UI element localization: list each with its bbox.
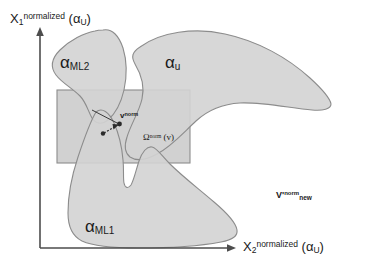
v-new-subscript: new <box>299 194 312 201</box>
region-label-alpha-ml1: αML1 <box>85 218 114 236</box>
region-label-alpha-ml2: αML2 <box>60 54 89 72</box>
annotation-omega-norm-label: Ωnorm (v) <box>143 133 174 142</box>
v-norm-origin-marker <box>101 131 105 135</box>
diagram-svg <box>0 0 373 271</box>
y-axis-superscript: normalized <box>23 11 65 21</box>
alpha-ml2-glyph: α <box>60 53 70 72</box>
alpha-ml2-subscript: ML2 <box>70 61 89 72</box>
y-axis-symbol: X <box>10 11 19 26</box>
x-axis-label: X2normalized (αU) <box>243 240 324 255</box>
alpha-ml1-subscript: ML1 <box>95 225 114 236</box>
alpha-u-subscript: u <box>175 61 181 72</box>
alpha-ml1-glyph: α <box>85 217 95 236</box>
annotation-v-norm-label: vnorm <box>120 112 138 120</box>
alpha-u-glyph: α <box>165 53 175 72</box>
omega-argument: (v) <box>164 132 175 142</box>
y-axis-arg-close: ) <box>87 11 91 26</box>
x-axis-arg-close: ) <box>320 239 324 254</box>
x-axis-superscript: normalized <box>256 239 298 249</box>
omega-base: Ω <box>143 132 150 142</box>
annotation-v-norm-new-label: V'normnew <box>276 190 312 201</box>
v-new-superscript: norm <box>284 190 299 196</box>
diagram-canvas: X1normalized (αU) X2normalized (αU) αML2… <box>0 0 373 271</box>
x-axis-symbol: X <box>243 239 252 254</box>
v-norm-superscript: norm <box>124 111 138 117</box>
y-axis-arrowhead <box>36 27 44 36</box>
x-axis-arrowhead <box>227 244 236 252</box>
omega-superscript: norm <box>150 133 162 139</box>
v-new-base: V' <box>276 190 284 200</box>
v-norm-point-marker <box>117 122 122 127</box>
region-label-alpha-u: αu <box>165 54 180 72</box>
y-axis-label: X1normalized (αU) <box>10 12 91 27</box>
